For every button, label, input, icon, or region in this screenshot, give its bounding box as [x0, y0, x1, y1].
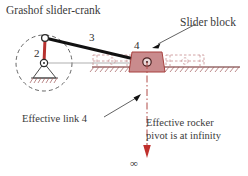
link-3-number-label: 3 — [89, 31, 95, 43]
crank-pin-joint-A — [42, 35, 49, 42]
phantom-slider-right — [166, 55, 204, 67]
page-title: Grashof slider-crank — [6, 4, 101, 16]
diagram-canvas: Grashof slider-crank Slider block Effect… — [0, 0, 248, 176]
infinity-symbol-label: ∞ — [130, 157, 138, 169]
effective-rocker-label: Effective rocker pivot is at infinity — [146, 117, 221, 142]
infinity-direction-arrowhead — [143, 145, 151, 158]
effective-rocker-line-1: Effective rocker — [146, 117, 221, 130]
effective-rocker-line-2: pivot is at infinity — [146, 130, 221, 143]
effective-link4-leader-line — [104, 98, 136, 117]
link-2-number-label: 2 — [34, 47, 40, 59]
effective-link-4-label: Effective link 4 — [22, 113, 87, 124]
link-4-number-label: 4 — [134, 39, 140, 51]
slider-block-label: Slider block — [180, 16, 236, 28]
slider-block-leader-arrowhead — [152, 43, 161, 48]
effective-link4-leader-arrowhead — [134, 94, 142, 102]
